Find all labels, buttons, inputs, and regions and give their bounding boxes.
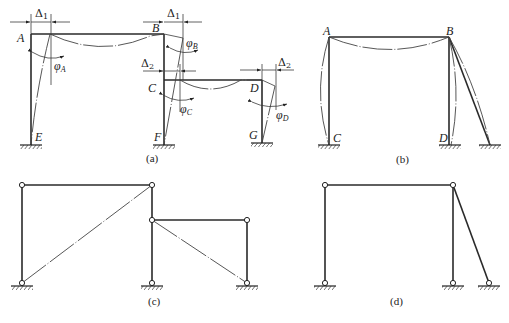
fixed-support-G bbox=[251, 143, 273, 147]
delta1-label-B: Δ1 bbox=[167, 7, 180, 21]
node-label-A: A bbox=[16, 31, 25, 45]
caption-a: (a) bbox=[146, 152, 159, 165]
deflected-column-DG bbox=[262, 86, 275, 143]
rotation-arc-phiC bbox=[163, 95, 194, 100]
node-label-F: F bbox=[153, 130, 162, 144]
pin-support-1 bbox=[314, 280, 336, 290]
hinge-icon bbox=[149, 217, 154, 222]
fixed-support-inclined bbox=[479, 145, 501, 149]
hinge-icon bbox=[149, 182, 154, 187]
deflected-beam-AB bbox=[50, 34, 164, 47]
caption-c: (c) bbox=[148, 295, 161, 308]
node-label-G: G bbox=[249, 128, 258, 142]
node-label-A: A bbox=[322, 24, 331, 38]
fixed-support-C bbox=[318, 145, 340, 149]
panel-b: A B C D (b) bbox=[318, 24, 501, 166]
node-label-D: D bbox=[249, 81, 259, 95]
panel-a: A B C D E F G Δ1 Δ1 Δ2 Δ2 φA φB φC φD (a… bbox=[10, 7, 294, 165]
hinge-icon bbox=[244, 217, 249, 222]
pin-support-3 bbox=[478, 280, 500, 290]
delta2-label-D: Δ2 bbox=[278, 56, 291, 70]
rotation-arc-phiA bbox=[32, 52, 64, 58]
delta1-label-A: Δ1 bbox=[35, 7, 48, 21]
pin-support-2 bbox=[141, 280, 163, 290]
node-label-B: B bbox=[446, 24, 454, 38]
hinge-icon bbox=[450, 182, 455, 187]
deflected-column-AC bbox=[321, 37, 330, 145]
node-label-B: B bbox=[152, 21, 160, 35]
panel-d: (d) bbox=[314, 182, 500, 308]
phiC-label: φC bbox=[180, 102, 193, 117]
hinge-icon bbox=[19, 182, 24, 187]
inclined-member bbox=[449, 37, 490, 145]
node-label-D: D bbox=[438, 131, 448, 145]
structural-frames-diagram: A B C D E F G Δ1 Δ1 Δ2 Δ2 φA φB φC φD (a… bbox=[0, 0, 509, 323]
delta2-label-C: Δ2 bbox=[141, 57, 154, 71]
fixed-support-E bbox=[20, 145, 42, 149]
hinge-icon bbox=[322, 182, 327, 187]
pin-support-2 bbox=[442, 280, 464, 290]
fixed-support-D bbox=[439, 145, 461, 149]
pin-support-3 bbox=[236, 280, 258, 290]
phiD-label: φD bbox=[276, 108, 289, 123]
deflected-column-AE bbox=[31, 34, 50, 145]
deflected-beam-AB bbox=[329, 37, 449, 50]
caption-d: (d) bbox=[390, 295, 403, 308]
caption-b: (b) bbox=[396, 153, 409, 166]
node-label-E: E bbox=[34, 130, 43, 144]
rotation-arc-phiD bbox=[252, 102, 287, 107]
diagonal-member-2 bbox=[152, 220, 247, 283]
node-label-C: C bbox=[333, 131, 342, 145]
phiA-label: φA bbox=[54, 59, 66, 74]
phiB-label: φB bbox=[186, 36, 198, 51]
diagonal-member-1 bbox=[22, 185, 152, 283]
panel-c: (c) bbox=[11, 182, 258, 308]
node-label-C: C bbox=[148, 81, 157, 95]
pin-support-1 bbox=[11, 280, 33, 290]
fixed-support-F bbox=[153, 145, 175, 149]
